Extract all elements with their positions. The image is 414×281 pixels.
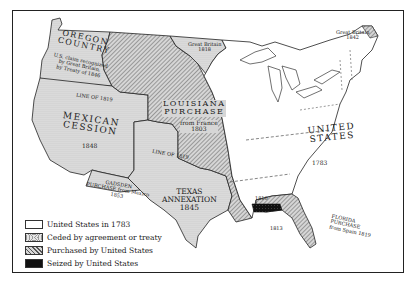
louisiana-label: LOUISIANAPURCHASE <box>162 100 226 117</box>
map-legend: United States in 1783 Ceded by agreement… <box>25 218 162 270</box>
seized-1813-label: 1813 <box>270 226 283 231</box>
dotted-swatch-icon <box>25 233 43 242</box>
seized-1810-label: 1810 <box>255 196 268 201</box>
seized-region <box>252 204 282 212</box>
texas-label: TEXASANNEXATION1845 <box>162 188 217 212</box>
mexican-cession-year: 1848 <box>82 143 97 149</box>
louisiana-sublabel: from France1803 <box>180 120 218 133</box>
black-swatch-icon <box>25 259 43 268</box>
legend-item-seized: Seized by United States <box>25 257 162 269</box>
great-britain-1842-label: Great Britain1842 <box>336 30 369 41</box>
florida-purchase-region <box>256 194 316 248</box>
united-states-year: 1783 <box>312 160 327 166</box>
legend-item-purchased: Purchased by United States <box>25 244 162 256</box>
hatched-swatch-icon <box>25 246 43 255</box>
legend-item-us-1783: United States in 1783 <box>25 218 162 230</box>
great-britain-1818-label: Great Britain1818 <box>188 42 221 53</box>
legend-item-ceded: Ceded by agreement or treaty <box>25 231 162 243</box>
white-swatch-icon <box>25 220 43 229</box>
